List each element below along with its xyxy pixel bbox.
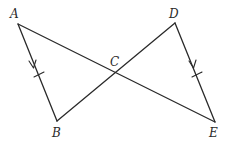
vertex-label-c: C xyxy=(110,55,119,69)
segment-de xyxy=(175,23,215,122)
segment-ae xyxy=(18,24,215,122)
vertex-label-d: D xyxy=(168,7,179,21)
geometry-diagram: A B C D E xyxy=(0,0,227,142)
segment-bd xyxy=(57,23,175,121)
vertex-label-e: E xyxy=(208,126,218,140)
vertex-label-a: A xyxy=(9,7,19,21)
vertex-label-b: B xyxy=(51,126,61,140)
segment-ab xyxy=(18,24,57,121)
